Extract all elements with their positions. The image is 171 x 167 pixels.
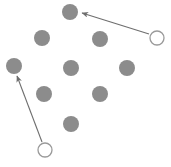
open-circle	[38, 143, 52, 157]
arrow-connector	[82, 13, 149, 34]
filled-dot	[63, 116, 79, 132]
arrow-connector	[17, 76, 42, 142]
filled-dot	[36, 86, 52, 102]
diagram-canvas	[0, 0, 171, 167]
filled-dot	[92, 31, 108, 47]
filled-dot	[63, 60, 79, 76]
filled-dot	[92, 86, 108, 102]
filled-dot	[34, 30, 50, 46]
scatter-diagram	[0, 0, 171, 167]
filled-dot	[62, 4, 78, 20]
filled-dot	[6, 58, 22, 74]
open-circle	[150, 31, 164, 45]
filled-dot	[119, 60, 135, 76]
